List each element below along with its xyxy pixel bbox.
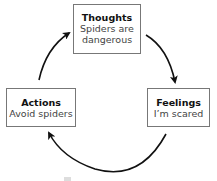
- actions-title: Actions: [7, 97, 75, 108]
- actions-line1: Avoid spiders: [7, 108, 75, 119]
- thoughts-line1: Spiders are: [74, 23, 140, 34]
- feelings-line1: I’m scared: [148, 108, 209, 119]
- decorative-mark: [64, 177, 71, 181]
- arrow-thoughts-to-feelings: [146, 35, 175, 82]
- arrow-actions-to-thoughts: [39, 33, 69, 80]
- thoughts-line2: dangerous: [74, 34, 140, 45]
- feelings-box: Feelings I’m scared: [147, 88, 210, 127]
- thoughts-box: Thoughts Spiders are dangerous: [73, 4, 141, 54]
- arrow-feelings-to-actions: [49, 133, 166, 172]
- thoughts-title: Thoughts: [74, 12, 140, 23]
- actions-box: Actions Avoid spiders: [6, 88, 76, 127]
- feelings-title: Feelings: [148, 97, 209, 108]
